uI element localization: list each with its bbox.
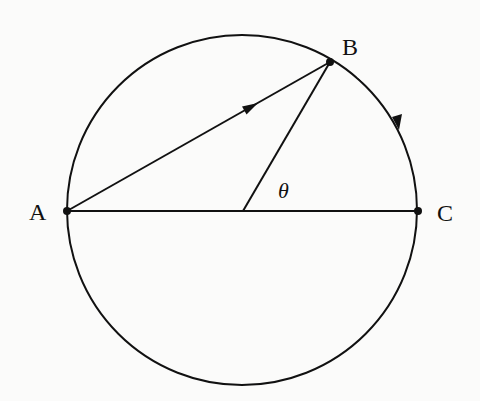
point-a [63, 207, 71, 215]
circle-diagram: A B C θ [0, 0, 480, 401]
point-c [414, 207, 422, 215]
label-b: B [342, 34, 358, 60]
label-theta: θ [278, 178, 289, 203]
label-a: A [29, 199, 47, 225]
arrowhead-ab-icon [242, 103, 258, 115]
chord-ab [67, 62, 330, 211]
label-c: C [437, 200, 453, 226]
point-b [326, 58, 334, 66]
